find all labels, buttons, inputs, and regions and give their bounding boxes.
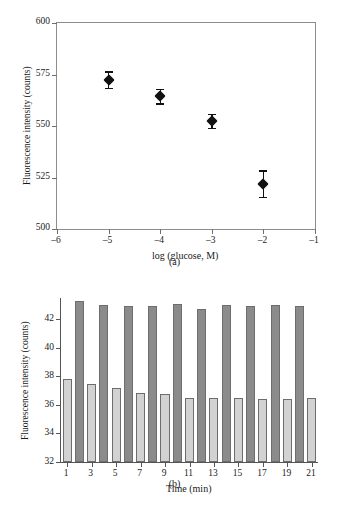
panel-b-y-tick-mark: [56, 348, 61, 349]
panel-b-y-tick-label: 36: [30, 400, 54, 410]
panel-b-x-tick-mark: [312, 462, 313, 467]
bar: [185, 398, 194, 462]
bar: [271, 305, 280, 462]
bar: [124, 306, 133, 462]
panel-b-x-tick-mark: [165, 462, 166, 467]
panel-a-x-tick-mark: [57, 229, 58, 234]
panel-a-y-tick-mark: [52, 126, 57, 127]
panel-b-x-tick-mark: [214, 462, 215, 467]
bar: [87, 384, 96, 462]
panel-a-y-tick-label: 575: [24, 69, 50, 79]
panel-b-y-tick-label: 34: [30, 428, 54, 438]
panel-b-y-tick-mark: [56, 433, 61, 434]
panel-a-y-tick-mark: [52, 178, 57, 179]
panel-b-x-tick-mark: [287, 462, 288, 467]
panel-b-y-tick-mark: [56, 376, 61, 377]
bar: [75, 301, 84, 462]
bar: [234, 398, 243, 462]
error-bar-bottom-cap: [259, 197, 267, 198]
panel-a-y-tick-label: 600: [24, 17, 50, 27]
panel-a-x-tick-label: –1: [300, 236, 328, 246]
error-bar-top-cap: [259, 170, 267, 171]
panel-a-y-tick-mark: [52, 23, 57, 24]
panel-b-x-tick-mark: [263, 462, 264, 467]
bar: [173, 304, 182, 462]
panel-a-x-tick-label: –5: [94, 236, 122, 246]
bar: [136, 393, 145, 462]
panel-a-x-tick-mark: [109, 229, 110, 234]
panel-b-x-tick-mark: [190, 462, 191, 467]
panel-b-x-tick-mark: [238, 462, 239, 467]
bar: [99, 305, 108, 462]
diamond-marker: [155, 90, 166, 101]
panel-a-y-tick-label: 500: [24, 223, 50, 233]
panel-a-plot-area: [56, 22, 316, 230]
panel-a-x-tick-mark: [263, 229, 264, 234]
panel-a-x-tick-mark: [212, 229, 213, 234]
panel-b-caption: (b): [0, 478, 349, 489]
bar: [160, 394, 169, 462]
panel-a-x-tick-mark: [160, 229, 161, 234]
bar: [307, 398, 316, 462]
panel-a-caption: (a): [0, 256, 349, 267]
bar: [295, 306, 304, 462]
bar: [63, 379, 72, 462]
panel-b-x-tick-mark: [92, 462, 93, 467]
error-bar-bottom-cap: [156, 103, 164, 104]
bar: [209, 398, 218, 462]
panel-a-y-tick-label: 550: [24, 120, 50, 130]
panel-b-plot-area: [60, 298, 318, 463]
error-bar-bottom-cap: [105, 88, 113, 89]
panel-b-y-tick-label: 42: [30, 314, 54, 324]
error-bar-bottom-cap: [208, 128, 216, 129]
bar: [258, 399, 267, 462]
error-bar-top-cap: [105, 71, 113, 72]
panel-a-scatter: Fluorescence intensity (counts) 50052555…: [0, 0, 349, 275]
panel-b-y-tick-mark: [56, 405, 61, 406]
bar: [246, 306, 255, 462]
panel-b-y-tick-mark: [56, 462, 61, 463]
panel-b-x-tick-mark: [141, 462, 142, 467]
panel-a-y-tick-label: 525: [24, 172, 50, 182]
panel-b-y-axis-title: Fluorescence intensity (counts): [20, 321, 30, 440]
panel-b-y-tick-label: 32: [30, 457, 54, 467]
bar: [148, 306, 157, 462]
panel-b-y-tick-label: 40: [30, 343, 54, 353]
bar: [112, 388, 121, 462]
panel-a-x-tick-label: –4: [145, 236, 173, 246]
bar: [283, 399, 292, 462]
panel-b-x-tick-mark: [67, 462, 68, 467]
diamond-marker: [258, 178, 269, 189]
panel-a-x-tick-label: –3: [197, 236, 225, 246]
panel-b-bar-chart: Fluorescence intensity (counts) 32343638…: [0, 280, 349, 505]
panel-b-x-tick-mark: [116, 462, 117, 467]
diamond-marker: [103, 74, 114, 85]
bar: [197, 309, 206, 462]
panel-a-x-tick-mark: [315, 229, 316, 234]
panel-b-y-tick-mark: [56, 319, 61, 320]
bar: [222, 305, 231, 462]
diamond-marker: [206, 115, 217, 126]
panel-a-y-tick-mark: [52, 75, 57, 76]
panel-a-x-tick-label: –2: [248, 236, 276, 246]
panel-a-x-tick-label: –6: [42, 236, 70, 246]
panel-b-y-tick-label: 38: [30, 371, 54, 381]
